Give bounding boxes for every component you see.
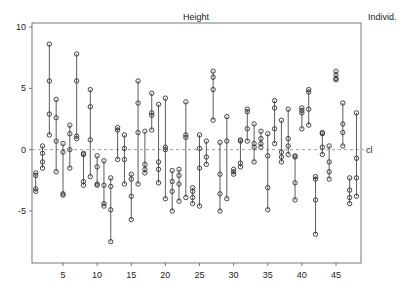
individual-3 <box>47 42 51 137</box>
individual-43 <box>320 130 324 156</box>
x-tick-label: 10 <box>92 270 102 280</box>
individual-12 <box>109 176 113 244</box>
x-tick-label: 45 <box>331 270 341 280</box>
individual-13 <box>115 125 119 161</box>
individual-47 <box>347 176 351 206</box>
individual-41 <box>307 87 311 127</box>
individual-25 <box>197 133 201 209</box>
individual-1 <box>34 171 38 194</box>
individual-10 <box>95 154 99 188</box>
individual-42 <box>313 174 317 236</box>
individual-18 <box>150 91 154 132</box>
x-tick-label: 20 <box>160 270 170 280</box>
individual-14 <box>122 133 126 186</box>
individual-36 <box>272 98 276 145</box>
cl-label: cl <box>366 145 373 155</box>
individual-29 <box>225 114 229 201</box>
individual-26 <box>204 139 208 167</box>
individual-2 <box>40 144 44 170</box>
individual-48 <box>354 111 358 199</box>
individual-32 <box>245 107 249 143</box>
individual-46 <box>341 101 345 148</box>
individual-4 <box>54 97 58 174</box>
individual-series <box>34 42 359 244</box>
individual-40 <box>300 106 304 131</box>
individual-6 <box>68 123 72 170</box>
individual-7 <box>74 52 78 141</box>
plot-border <box>32 23 361 263</box>
individual-39 <box>293 154 297 203</box>
individual-17 <box>143 129 147 175</box>
individual-15 <box>129 172 133 222</box>
x-axis: 51015202530354045 <box>60 263 341 280</box>
individual-34 <box>259 129 263 149</box>
x-tick-label: 25 <box>194 270 204 280</box>
x-tick-label: 30 <box>229 270 239 280</box>
individ-label: Individ. <box>368 12 397 22</box>
x-tick-label: 15 <box>126 270 136 280</box>
individual-30 <box>231 167 235 176</box>
y-tick-label: 10 <box>16 22 26 32</box>
individual-33 <box>252 122 256 164</box>
x-tick-label: 40 <box>297 270 307 280</box>
x-tick-label: 35 <box>263 270 273 280</box>
x-tick-label: 5 <box>60 270 65 280</box>
individual-16 <box>136 79 140 186</box>
y-tick-label: -5 <box>18 206 26 216</box>
chart: 51015202530354045 -50510 Height Individ.… <box>0 0 407 301</box>
individual-28 <box>218 140 222 213</box>
individual-8 <box>81 151 85 187</box>
individual-45 <box>334 69 338 82</box>
individual-21 <box>170 168 174 213</box>
y-tick-label: 0 <box>21 145 26 155</box>
chart-title: Height <box>183 12 210 22</box>
individual-31 <box>238 138 242 169</box>
individual-11 <box>102 159 106 209</box>
y-tick-label: 5 <box>21 83 26 93</box>
plot-frame <box>32 23 361 263</box>
individual-35 <box>266 132 270 212</box>
individual-9 <box>88 87 92 178</box>
individual-37 <box>279 118 283 164</box>
y-axis: -50510 <box>16 22 32 216</box>
individual-19 <box>156 102 160 185</box>
individual-27 <box>211 69 215 122</box>
individual-22 <box>177 167 181 203</box>
individual-24 <box>190 185 194 205</box>
individual-20 <box>163 96 167 201</box>
